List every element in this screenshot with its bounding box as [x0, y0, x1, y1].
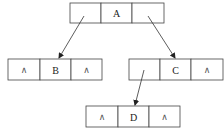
node-c-left-pointer-cell: [129, 59, 160, 80]
node-d: ∧ D ∧: [86, 106, 180, 127]
node-b-label: B: [52, 65, 59, 76]
node-a-label: A: [113, 8, 121, 19]
null-pointer-icon: ∧: [99, 112, 106, 122]
node-a-right-pointer-cell: [132, 3, 164, 23]
null-pointer-icon: ∧: [83, 65, 90, 75]
node-c-label: C: [172, 65, 179, 76]
null-pointer-icon: ∧: [204, 65, 211, 75]
node-a-left-pointer-cell: [70, 3, 101, 23]
node-d-label: D: [130, 112, 137, 123]
node-a: A: [70, 3, 164, 23]
node-b: ∧ B ∧: [8, 59, 102, 80]
null-pointer-icon: ∧: [21, 65, 28, 75]
node-c: C ∧: [129, 59, 223, 80]
null-pointer-icon: ∧: [161, 112, 168, 122]
binary-tree-diagram: A ∧ B ∧ C ∧ ∧ D ∧: [0, 0, 224, 138]
